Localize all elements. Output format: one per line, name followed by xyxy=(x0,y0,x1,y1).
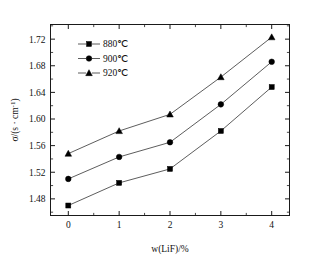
y-tick-label: 1.68 xyxy=(29,61,46,71)
data-point xyxy=(269,85,274,90)
legend-label: 900℃ xyxy=(103,54,128,64)
x-tick-label: 1 xyxy=(117,220,122,230)
chart-figure: 1.481.521.561.601.641.681.72 01234 880℃9… xyxy=(0,0,322,274)
data-point xyxy=(218,128,223,133)
y-tick-label: 1.72 xyxy=(29,35,46,45)
data-point xyxy=(116,154,122,160)
y-tick-label: 1.64 xyxy=(29,88,46,98)
x-tick-label: 0 xyxy=(66,220,71,230)
data-point xyxy=(167,139,173,145)
data-point xyxy=(168,166,173,171)
data-point xyxy=(66,203,71,208)
legend-marker xyxy=(87,42,92,47)
legend-label: 880℃ xyxy=(103,39,128,49)
x-tick-label: 4 xyxy=(269,220,274,230)
y-tick-label: 1.60 xyxy=(29,114,46,124)
legend-label: 920℃ xyxy=(103,68,128,78)
x-axis-title: w(LiF)/% xyxy=(151,244,189,255)
data-point xyxy=(117,180,122,185)
data-point xyxy=(269,59,275,65)
y-tick-label: 1.48 xyxy=(29,194,46,204)
legend-marker xyxy=(86,56,92,62)
y-tick-label: 1.52 xyxy=(29,168,46,178)
x-tick-label: 3 xyxy=(218,220,223,230)
chart-background xyxy=(0,0,322,274)
data-point xyxy=(218,102,224,108)
y-tick-label: 1.56 xyxy=(29,141,46,151)
line-chart: 1.481.521.561.601.641.681.72 01234 880℃9… xyxy=(0,0,322,274)
data-point xyxy=(65,176,71,182)
x-tick-label: 2 xyxy=(168,220,173,230)
